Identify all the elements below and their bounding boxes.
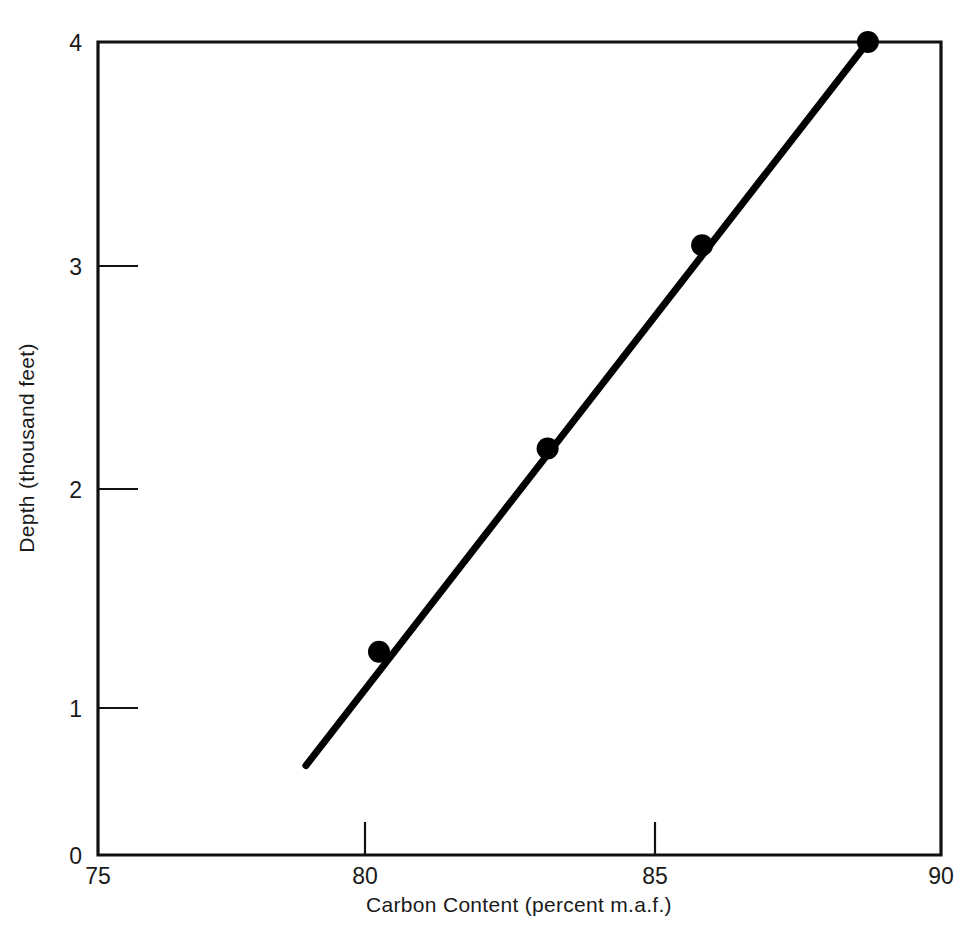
x-axis-title: Carbon Content (percent m.a.f.) (366, 893, 672, 916)
x-tick-label-85: 85 (642, 863, 668, 889)
y-tick-label-4: 4 (69, 30, 82, 56)
data-point-marker (857, 31, 879, 53)
x-axis-ticks (365, 822, 655, 855)
y-tick-label-2: 2 (69, 477, 82, 503)
x-tick-label-80: 80 (352, 863, 378, 889)
x-tick-label-90: 90 (928, 863, 954, 889)
x-tick-label-75: 75 (85, 863, 111, 889)
axis-box (98, 42, 941, 855)
scatter-plot-canvas: 4 3 2 1 0 75 80 85 90 Carbon Content (pe… (0, 0, 977, 939)
y-tick-label-1: 1 (69, 696, 82, 722)
data-point-marker (368, 641, 390, 663)
data-point-marker (691, 234, 713, 256)
y-axis-ticks (98, 266, 138, 708)
y-axis-title: Depth (thousand feet) (15, 343, 38, 552)
plot-frame (98, 42, 941, 855)
trend-line-group (306, 42, 868, 766)
y-tick-label-0: 0 (69, 843, 82, 869)
x-axis-tick-labels: 75 80 85 90 (85, 863, 954, 889)
fitted-trend-line (306, 42, 868, 766)
y-axis-tick-labels: 4 3 2 1 0 (69, 30, 82, 869)
chart-figure: 4 3 2 1 0 75 80 85 90 Carbon Content (pe… (0, 0, 977, 939)
y-tick-label-3: 3 (69, 254, 82, 280)
data-point-marker (537, 438, 559, 460)
